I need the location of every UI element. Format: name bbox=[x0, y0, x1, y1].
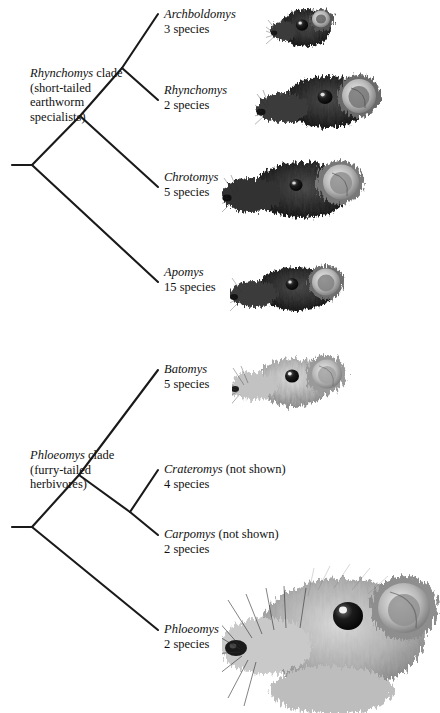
tip-note-carpomys: (not shown) bbox=[215, 527, 278, 541]
tip-note-crateromys: (not shown) bbox=[223, 462, 286, 476]
clade-line3-phloeomys: herbivores) bbox=[30, 477, 114, 492]
clade-line2-phloeomys: (furry-tailed bbox=[30, 463, 114, 478]
tip-label-crateromys: Crateromys (not shown) 4 species bbox=[164, 462, 286, 491]
clade-genus-phloeomys: Phloeomys bbox=[30, 448, 85, 462]
clade-suffix-rhynchomys: clade bbox=[93, 66, 123, 80]
tip-label-carpomys: Carpomys (not shown) 2 species bbox=[164, 527, 279, 556]
clade-suffix-phloeomys: clade bbox=[85, 448, 115, 462]
tip-count-rhynchomys: 2 species bbox=[164, 98, 227, 113]
tip-count-crateromys: 4 species bbox=[164, 477, 286, 492]
tip-label-archboldomys: Archboldomys 3 species bbox=[164, 7, 236, 36]
tip-genus-phloeomys: Phloeomys bbox=[164, 622, 219, 636]
tip-count-carpomys: 2 species bbox=[164, 542, 279, 557]
tip-genus-apomys: Apomys bbox=[164, 265, 204, 279]
tip-label-apomys: Apomys 15 species bbox=[164, 265, 216, 294]
tip-genus-chrotomys: Chrotomys bbox=[164, 170, 218, 184]
clade-line2-rhynchomys: (short-tailed bbox=[30, 81, 123, 96]
branch-n3-rhynchomys bbox=[122, 68, 158, 100]
branch-n3-archboldomys bbox=[122, 14, 158, 68]
tip-genus-batomys: Batomys bbox=[164, 362, 207, 376]
tip-label-chrotomys: Chrotomys 5 species bbox=[164, 170, 218, 199]
branch-m3-crateromys bbox=[130, 470, 158, 512]
tip-count-archboldomys: 3 species bbox=[164, 22, 236, 37]
branch-n1-apomys bbox=[32, 165, 158, 282]
tip-genus-carpomys: Carpomys bbox=[164, 527, 215, 541]
tip-count-batomys: 5 species bbox=[164, 377, 209, 392]
tip-label-rhynchomys: Rhynchomys 2 species bbox=[164, 83, 227, 112]
clade-genus-rhynchomys: Rhynchomys bbox=[30, 66, 93, 80]
clade-label-phloeomys: Phloeomys clade (furry-tailed herbivores… bbox=[30, 448, 114, 492]
clade-line3-rhynchomys: earthworm bbox=[30, 95, 123, 110]
tip-genus-rhynchomys: Rhynchomys bbox=[164, 83, 227, 97]
tip-count-apomys: 15 species bbox=[164, 280, 216, 295]
clade-line4-rhynchomys: specialists) bbox=[30, 110, 123, 125]
branch-m1-phloeomys bbox=[32, 527, 158, 630]
clade-label-rhynchomys: Rhynchomys clade (short-tailed earthworm… bbox=[30, 66, 123, 124]
branch-n2-chrotomys bbox=[80, 116, 158, 187]
branch-m3-carpomys bbox=[130, 512, 158, 535]
tip-genus-archboldomys: Archboldomys bbox=[164, 7, 236, 21]
tip-count-chrotomys: 5 species bbox=[164, 185, 218, 200]
tip-label-phloeomys: Phloeomys 2 species bbox=[164, 622, 219, 651]
tip-genus-crateromys: Crateromys bbox=[164, 462, 223, 476]
tip-label-batomys: Batomys 5 species bbox=[164, 362, 209, 391]
tip-count-phloeomys: 2 species bbox=[164, 637, 219, 652]
figure-canvas: Rhynchomys clade (short-tailed earthworm… bbox=[0, 0, 440, 713]
